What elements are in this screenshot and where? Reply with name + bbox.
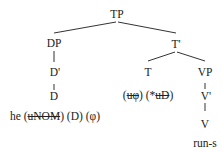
d-leaf: he (uNOM) (D) (φ) — [10, 110, 100, 123]
edge-tbar-vp — [177, 52, 205, 61]
node-d-bar: D' — [50, 66, 60, 79]
feature-unom: uNOM — [28, 110, 61, 122]
node-dp: DP — [47, 37, 62, 50]
node-vp: VP — [198, 66, 213, 79]
edge-tbar-t — [148, 52, 175, 61]
edge-tp-dp — [54, 22, 116, 33]
feature-uphi: uφ — [127, 89, 139, 101]
node-v: V — [201, 118, 209, 131]
v-word: run-s — [193, 137, 217, 150]
t-features: (uφ) (*uD) — [123, 89, 173, 102]
node-t-bar: T' — [171, 38, 180, 51]
feature-ud: uD — [155, 89, 169, 101]
d-word: he — [10, 110, 21, 122]
feature-phi: φ — [90, 110, 97, 122]
feature-d: D — [71, 110, 79, 122]
tree-edges — [0, 0, 222, 151]
node-d: D — [50, 90, 58, 103]
node-t: T — [144, 66, 151, 79]
edge-tp-tbar — [118, 22, 176, 33]
node-v-bar: V' — [201, 90, 211, 103]
node-tp: TP — [110, 8, 123, 21]
